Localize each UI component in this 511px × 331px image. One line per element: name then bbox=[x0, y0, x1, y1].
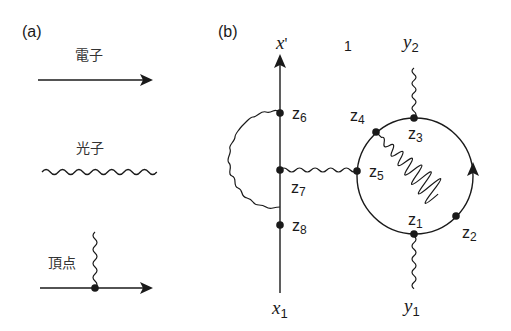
photon-line-y2-z3 bbox=[412, 68, 416, 118]
vertex-dot-z8 bbox=[276, 221, 284, 229]
vertex-dot-z2 bbox=[452, 212, 460, 220]
vertex-dot-z3 bbox=[410, 114, 418, 122]
z3-label: z3 bbox=[408, 126, 423, 144]
panel-a-label: (a) bbox=[22, 24, 42, 40]
z6-label: z6 bbox=[292, 106, 307, 124]
photon-wavy-line-icon bbox=[42, 170, 157, 175]
vertex-dot-z7 bbox=[276, 166, 284, 174]
panel-b-label: (b) bbox=[218, 24, 238, 40]
y2-label: y2 bbox=[403, 32, 419, 54]
vertex-dot-z4 bbox=[372, 128, 380, 136]
photon-label: 光子 bbox=[76, 141, 104, 155]
z1-label: z1 bbox=[408, 212, 423, 230]
electron-label: 電子 bbox=[75, 48, 103, 62]
z7-label: z7 bbox=[291, 180, 306, 198]
electron-line-icon bbox=[38, 74, 153, 86]
photon-line-z1-y1 bbox=[412, 236, 416, 289]
vertex-dot-z5 bbox=[353, 167, 361, 175]
z8-label: z8 bbox=[292, 218, 307, 236]
vertex-dot-z1 bbox=[410, 230, 418, 238]
x-prime-label: x' bbox=[276, 33, 287, 52]
z4-label: z4 bbox=[350, 108, 365, 126]
number-label: 1 bbox=[344, 39, 352, 53]
y1-label: y1 bbox=[404, 296, 420, 318]
photon-line-z7-z5 bbox=[280, 168, 358, 172]
z5-label: z5 bbox=[369, 164, 384, 182]
photon-loop-z6-z8-wavy bbox=[228, 110, 280, 208]
x1-label: x1 bbox=[272, 298, 288, 320]
z2-label: z2 bbox=[462, 225, 477, 243]
vertex-label: 頂点 bbox=[48, 256, 76, 270]
vertex-dot-z6 bbox=[276, 109, 284, 117]
